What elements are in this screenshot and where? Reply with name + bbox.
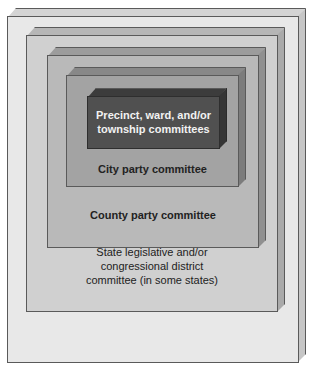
- precinct-label-line1: Precinct, ward, and/or: [88, 108, 219, 122]
- state-legislative-label-line3: committee (in some states): [27, 273, 277, 287]
- state-legislative-label-line2: congressional district: [27, 259, 277, 273]
- precinct-face: Precinct, ward, and/or township committe…: [87, 96, 220, 149]
- state-legislative-side-bevel: [277, 27, 285, 312]
- city-side-bevel: [238, 67, 246, 187]
- state-central-side-bevel: [298, 8, 306, 362]
- precinct-label-line2: township committees: [88, 122, 219, 136]
- county-label: County party committee: [48, 208, 258, 222]
- precinct-side-bevel: [219, 88, 227, 149]
- city-label: City party committee: [67, 162, 238, 176]
- county-side-bevel: [258, 47, 266, 248]
